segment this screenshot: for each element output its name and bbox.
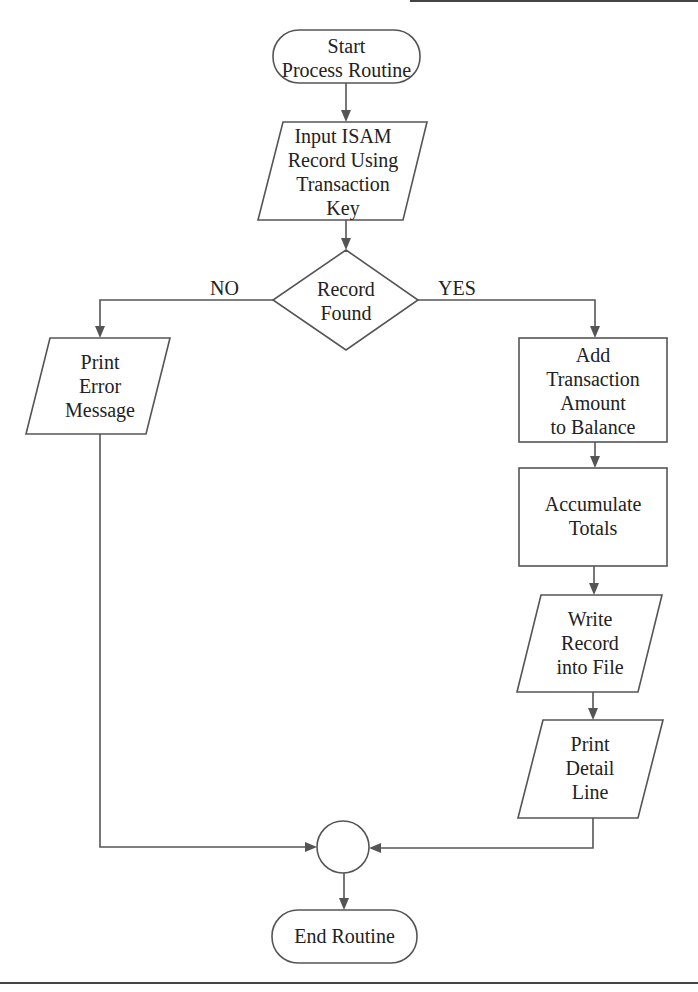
edge-error-connector: [100, 434, 307, 847]
text-line: Detail: [530, 756, 650, 780]
arrowhead-icon: [590, 326, 600, 338]
text-line: Message: [40, 398, 160, 422]
branch-label-no: NO: [210, 277, 239, 299]
text-line: Totals: [519, 516, 667, 540]
text-line: Record: [530, 631, 650, 655]
arrowhead-icon: [588, 708, 598, 720]
add-transaction-label: Add Transaction Amount to Balance: [519, 343, 667, 439]
accumulate-label: Accumulate Totals: [519, 492, 667, 540]
text-line: Add: [519, 343, 667, 367]
arrowhead-icon: [589, 583, 599, 595]
arrowhead-icon: [590, 456, 600, 468]
text-line: Error: [40, 374, 160, 398]
edge-detail-connector: [379, 818, 593, 848]
text-line: End Routine: [272, 924, 417, 948]
connector-circle: [317, 821, 369, 873]
end-terminal-label: End Routine: [272, 924, 417, 948]
text-line: Transaction: [262, 172, 424, 196]
write-record-label: Write Record into File: [530, 607, 650, 679]
text-line: Accumulate: [519, 492, 667, 516]
input-record-label: Input ISAM Record Using Transaction Key: [262, 124, 424, 220]
text-line: Record Using: [262, 148, 424, 172]
arrowhead-icon: [369, 843, 381, 853]
text-line: Record: [296, 277, 396, 301]
branch-label-yes: YES: [438, 277, 476, 299]
text-line: Print: [40, 350, 160, 374]
arrowhead-icon: [341, 110, 351, 122]
text-line: Key: [262, 196, 424, 220]
text-line: Write: [530, 607, 650, 631]
text-line: Transaction: [519, 367, 667, 391]
start-terminal-label: Start Process Routine: [273, 34, 420, 82]
arrowhead-icon: [341, 238, 351, 250]
arrowhead-icon: [95, 326, 105, 338]
edge-decision-no: [100, 300, 273, 328]
arrowhead-icon: [339, 898, 349, 910]
text-line: Amount: [519, 391, 667, 415]
arrowhead-icon: [305, 842, 317, 852]
print-detail-label: Print Detail Line: [530, 732, 650, 804]
decision-label: Record Found: [296, 277, 396, 325]
text-line: Input ISAM: [262, 124, 424, 148]
text-line: Start: [273, 34, 420, 58]
text-line: Process Routine: [273, 58, 420, 82]
text-line: Print: [530, 732, 650, 756]
text-line: to Balance: [519, 415, 667, 439]
print-error-label: Print Error Message: [40, 350, 160, 422]
text-line: Line: [530, 780, 650, 804]
edge-decision-yes: [418, 300, 595, 328]
text-line: Found: [296, 301, 396, 325]
text-line: into File: [530, 655, 650, 679]
